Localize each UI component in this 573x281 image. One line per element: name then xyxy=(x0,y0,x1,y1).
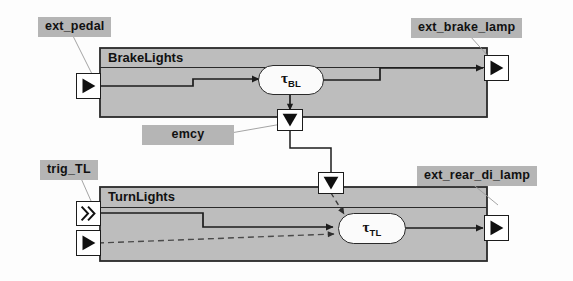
brake-output-port[interactable] xyxy=(484,55,509,81)
block-title-turn-lights: TurnLights xyxy=(108,189,175,204)
tau-bl-node[interactable]: τBL xyxy=(258,65,324,95)
annotation-ext-pedal: ext_pedal xyxy=(38,17,111,37)
block-title-brake-lights: BrakeLights xyxy=(108,50,183,65)
down-triangle-icon xyxy=(278,110,302,130)
annotation-emcy: emcy xyxy=(142,125,234,145)
brake-input-port[interactable] xyxy=(76,73,101,99)
down-triangle-icon xyxy=(319,173,343,193)
annotation-trig-tl: trig_TL xyxy=(40,160,98,180)
tau-tl-node[interactable]: τTL xyxy=(338,213,406,244)
right-triangle-icon xyxy=(485,56,508,80)
right-triangle-icon xyxy=(77,74,100,98)
turn-data-input-port[interactable] xyxy=(76,230,101,256)
turn-output-port[interactable] xyxy=(484,215,509,241)
right-triangle-icon xyxy=(77,231,100,255)
trig-event-input-port[interactable] xyxy=(76,201,101,226)
wire-emcy-to-turnlights xyxy=(290,130,331,172)
annotation-ext-brake-lamp: ext_brake_lamp xyxy=(411,18,522,38)
double-chevron-icon xyxy=(77,202,100,225)
right-triangle-icon xyxy=(485,216,508,240)
emcy-output-port[interactable] xyxy=(277,109,303,131)
tau-bl-label: τBL xyxy=(281,71,301,89)
diagram-canvas: BrakeLights TurnLights τBL τTL xyxy=(0,0,573,281)
emcy-input-port[interactable] xyxy=(318,172,344,194)
tau-tl-label: τTL xyxy=(363,220,382,238)
annotation-ext-rear-di-lamp: ext_rear_di_lamp xyxy=(417,166,537,186)
